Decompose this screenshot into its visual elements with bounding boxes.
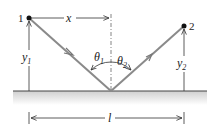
y1-label: y1	[21, 50, 31, 66]
point-2-dot-icon	[182, 24, 187, 29]
x-label: x	[65, 11, 72, 25]
reflection-diagram: x y1 y2 θ1 θ2 l 1 2	[0, 0, 214, 130]
y2-label: y2	[176, 56, 186, 72]
theta2-label: θ2	[117, 54, 127, 70]
l-label: l	[108, 111, 112, 125]
point-1-dot-icon	[27, 16, 32, 21]
point-2-label: 2	[189, 20, 195, 32]
ground-surface	[13, 91, 207, 105]
point-1-label: 1	[18, 12, 24, 24]
theta1-label: θ1	[94, 50, 104, 66]
